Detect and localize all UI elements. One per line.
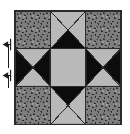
block-cell-bottom-left: [15, 86, 51, 125]
patch-print-square: [16, 12, 50, 49]
quilt-block-diagram: [0, 0, 130, 134]
block-cell-top-left: [15, 11, 51, 50]
quarter-square-triangle-unit: [51, 12, 85, 49]
block-cell-bottom-right: [85, 86, 121, 125]
patch-print-square: [86, 12, 120, 49]
patch-print-square: [86, 87, 120, 124]
quarter-square-triangle-unit: [51, 87, 85, 124]
quarter-square-triangle-unit: [16, 49, 50, 86]
block-cell-middle-right: [85, 48, 121, 87]
quarter-square-triangle-unit: [86, 49, 120, 86]
dimension-arrow-upper: [2, 38, 15, 51]
patch-print-square: [16, 87, 50, 124]
arrow-left-icon: [3, 39, 11, 50]
block-cell-bottom-center: [50, 86, 86, 125]
block-cell-middle-left: [15, 48, 51, 87]
block-cell-top-center: [50, 11, 86, 50]
patch-center-square: [51, 49, 85, 86]
block-cell-center: [50, 48, 86, 87]
block-cell-top-right: [85, 11, 121, 50]
dimension-arrow-lower: [2, 69, 15, 82]
quilt-block: [14, 10, 122, 125]
arrow-left-icon: [3, 70, 11, 81]
